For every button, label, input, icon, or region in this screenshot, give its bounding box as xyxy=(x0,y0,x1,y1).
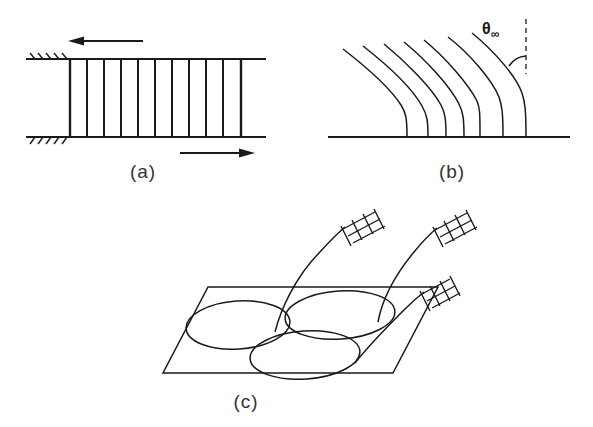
panel-b-curve xyxy=(448,37,503,137)
panel-b-curve xyxy=(343,49,407,137)
panel-b: θ ∞ (b) xyxy=(328,19,570,182)
panel-b-curve xyxy=(384,44,446,137)
panel-b-curve xyxy=(363,46,428,137)
panel-a-bottom-wall-hatching xyxy=(26,137,74,144)
panel-a: (a) xyxy=(26,37,266,183)
panel-b-angle-arc xyxy=(509,56,526,66)
schematic-figure: (a) θ ∞ (b) xyxy=(0,0,593,427)
panel-b-curve xyxy=(424,40,480,137)
panel-a-label: (a) xyxy=(130,161,156,182)
crosshatch-grid-marker xyxy=(341,209,385,246)
theta-symbol: θ xyxy=(482,20,491,37)
panel-c-filament-front xyxy=(355,276,460,363)
top-shear-arrow xyxy=(68,37,143,46)
crosshatch-grid-marker xyxy=(433,210,477,247)
panel-b-label: (b) xyxy=(439,161,465,182)
panel-c: (c) xyxy=(163,209,477,412)
panel-b-curves xyxy=(343,33,526,137)
panel-a-top-wall-hatching xyxy=(26,53,74,59)
theta-infinity-label: θ ∞ xyxy=(482,20,500,41)
crosshatch-grid-marker xyxy=(420,276,460,311)
panel-c-ellipse-left xyxy=(184,297,291,352)
figure-root: (a) θ ∞ (b) xyxy=(0,0,593,427)
panel-c-filament-left xyxy=(275,209,385,332)
bottom-shear-arrow xyxy=(180,149,255,158)
panel-a-rungs xyxy=(70,58,241,138)
panel-c-label: (c) xyxy=(233,391,258,412)
theta-subscript: ∞ xyxy=(491,27,500,41)
panel-b-curve xyxy=(404,42,464,137)
